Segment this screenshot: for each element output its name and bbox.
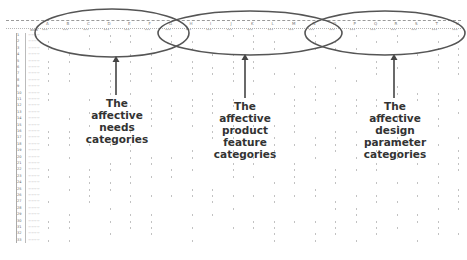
- arrow-product-feature: [242, 54, 249, 98]
- label-line: product: [208, 124, 282, 136]
- label-line: categories: [355, 148, 435, 160]
- label-design-parameter-categories: The affective design parameter categorie…: [355, 100, 435, 160]
- label-line: categories: [208, 148, 282, 160]
- label-line: The: [355, 100, 435, 112]
- ellipse-design-parameter: [305, 11, 465, 55]
- ellipse-needs: [35, 9, 189, 57]
- ellipse-product-feature: [158, 11, 342, 55]
- label-line: affective: [82, 109, 152, 121]
- label-line: feature: [208, 136, 282, 148]
- label-line: categories: [82, 133, 152, 145]
- label-line: The: [82, 97, 152, 109]
- label-line: affective: [355, 112, 435, 124]
- label-line: parameter: [355, 136, 435, 148]
- label-line: design: [355, 124, 435, 136]
- label-line: needs: [82, 121, 152, 133]
- label-line: The: [208, 100, 282, 112]
- arrow-needs: [113, 56, 120, 95]
- arrow-design-parameter: [391, 54, 398, 98]
- label-product-feature-categories: The affective product feature categories: [208, 100, 282, 160]
- label-line: affective: [208, 112, 282, 124]
- label-needs-categories: The affective needs categories: [82, 97, 152, 145]
